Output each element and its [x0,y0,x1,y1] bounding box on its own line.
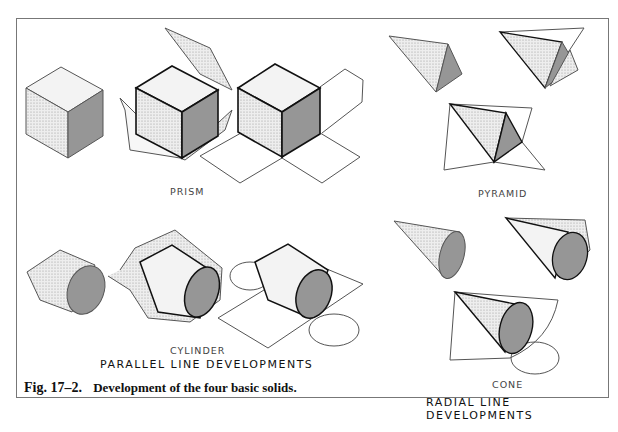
cylinder-label: CYLINDER [170,345,225,356]
prism-solid [26,67,103,158]
cone-label: CONE [492,379,523,390]
cylinder-net [218,244,363,348]
figure-caption: Fig. 17–2. Development of the four basic… [24,380,297,396]
figure-caption-text: Development of the four basic solids. [93,380,296,395]
cylinder-unfolding [108,230,226,322]
cone-net [450,292,559,374]
cone-solid [394,221,470,281]
prism-label: PRISM [170,186,204,197]
pyramid-net [444,104,545,170]
parallel-developments-heading: PARALLEL LINE DEVELOPMENTS [100,358,313,371]
radial-developments-heading: RADIAL LINE DEVELOPMENTS [426,396,618,422]
cylinder-solid [27,250,111,320]
pyramid-label: PYRAMID [478,188,527,199]
figure-number: Fig. 17–2. [24,380,82,395]
pyramid-solid [389,36,462,92]
pyramid-unfolding [500,28,584,88]
prism-unfolding [120,28,232,160]
cone-unfolding [506,218,593,284]
